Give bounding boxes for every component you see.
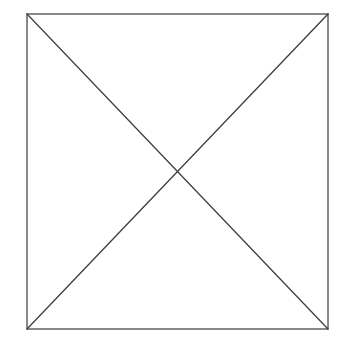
square-with-diagonals-diagram — [0, 0, 352, 344]
figure-canvas: Square with both diagonals drawn A squar… — [0, 0, 352, 344]
